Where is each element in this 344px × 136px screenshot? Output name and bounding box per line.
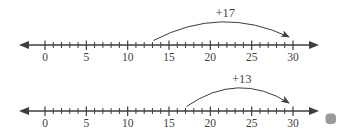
jump-arrow xyxy=(187,88,289,107)
jump-label: +13 xyxy=(232,72,252,86)
gray-dot-marker xyxy=(326,114,337,125)
tick-label: 15 xyxy=(163,117,175,129)
tick-label: 20 xyxy=(205,51,217,63)
tick-label: 5 xyxy=(83,51,89,63)
tick-label: 25 xyxy=(246,117,258,129)
tick-label: 30 xyxy=(287,117,299,129)
right-arrowhead-icon xyxy=(309,41,319,49)
tick-label: 10 xyxy=(122,117,134,129)
jump-label: +17 xyxy=(215,6,235,20)
jump-arrow xyxy=(153,22,289,41)
tick-label: 0 xyxy=(42,51,48,63)
right-arrowhead-icon xyxy=(309,107,319,115)
tick-label: 5 xyxy=(83,117,89,129)
tick-label: 15 xyxy=(163,51,175,63)
tick-label: 30 xyxy=(287,51,299,63)
diagram-canvas: 051015202530+17051015202530+13 xyxy=(0,0,344,136)
tick-label: 20 xyxy=(205,117,217,129)
number-line-top: 051015202530+17 xyxy=(19,6,319,63)
number-line-diagram: 051015202530+17051015202530+13 xyxy=(0,0,344,136)
left-arrowhead-icon xyxy=(19,41,29,49)
number-line-bottom: 051015202530+13 xyxy=(19,72,319,129)
tick-label: 10 xyxy=(122,51,134,63)
tick-label: 0 xyxy=(42,117,48,129)
tick-label: 25 xyxy=(246,51,258,63)
left-arrowhead-icon xyxy=(19,107,29,115)
